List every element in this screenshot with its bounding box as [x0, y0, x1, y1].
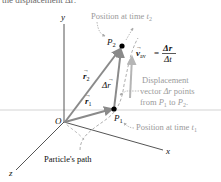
v-av-vector — [130, 57, 132, 98]
v-av-arrow-accent: → — [136, 44, 142, 50]
displacement-note-line2: vector Δr points — [140, 86, 195, 96]
v-av-numerator: Δr — [162, 43, 173, 53]
particle-path-label: Particle's path — [44, 154, 92, 164]
point-p1 — [111, 106, 116, 111]
p2-label: P2 — [106, 37, 116, 48]
position-t1-leader — [124, 123, 134, 128]
r1-arrow-accent: → — [85, 92, 91, 98]
point-p2 — [119, 43, 124, 48]
displacement-diagram: the displacement Δr: y x z O P2 P1 r2 → … — [0, 0, 221, 182]
v-av-equation: vav → = Δr Δt — [136, 43, 176, 64]
delta-r-vector — [114, 50, 121, 109]
position-t2-leader — [97, 22, 105, 36]
r2-vector — [65, 49, 120, 122]
r2-arrow-accent: → — [83, 67, 89, 73]
position-t2-note: Position at time t2 — [91, 11, 152, 22]
z-axis-label: z — [8, 168, 13, 178]
displacement-note-line3: from P1 to P2. — [140, 97, 188, 108]
y-axis-label: y — [60, 12, 65, 22]
position-t1-note: Position at time t1 — [136, 122, 197, 133]
v-av-equals: = — [154, 48, 159, 58]
path-direction-arrow — [126, 28, 133, 40]
origin-label: O — [55, 116, 62, 126]
p1-label: P1 — [113, 113, 123, 124]
displacement-note-line1: Displacement — [142, 75, 189, 85]
delta-r-arrow-accent: → — [108, 76, 114, 82]
x-axis-label: x — [165, 146, 170, 156]
v-av-denominator: Δt — [163, 54, 172, 64]
header-fragment: the displacement Δr: — [2, 0, 76, 5]
